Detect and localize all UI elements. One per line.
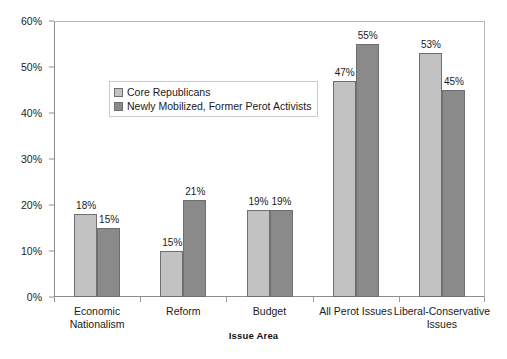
x-tick-mark [226, 297, 227, 302]
bar-group: 53%45% [419, 21, 465, 297]
legend-item-core-republicans: Core Republicans [114, 85, 311, 99]
chart-legend: Core Republicans Newly Mobilized, Former… [109, 81, 318, 117]
bar-value-label: 55% [348, 30, 388, 41]
bar[interactable] [333, 81, 356, 297]
bar[interactable] [183, 200, 206, 297]
legend-swatch-core-republicans [114, 88, 123, 97]
bar-value-label: 45% [434, 76, 474, 87]
x-category-label: Liberal-ConservativeIssues [391, 305, 493, 331]
bar-value-label: 53% [411, 39, 451, 50]
bar-group: 18%15% [74, 21, 120, 297]
y-tick-label: 40% [21, 107, 42, 119]
bar[interactable] [74, 214, 97, 297]
bar[interactable] [442, 90, 465, 297]
legend-label-newly-mobilized: Newly Mobilized, Former Perot Activists [127, 100, 311, 112]
bar-chart: 0%10%20%30%40%50%60% 18%15%15%21%19%19%4… [0, 0, 507, 359]
x-tick-mark [313, 297, 314, 302]
bar[interactable] [356, 44, 379, 297]
x-tick-mark [54, 297, 55, 302]
bar[interactable] [97, 228, 120, 297]
bar[interactable] [160, 251, 183, 297]
y-tick-label: 0% [27, 291, 42, 303]
bar-group: 15%21% [160, 21, 206, 297]
bar[interactable] [270, 210, 293, 297]
legend-swatch-newly-mobilized [114, 102, 123, 111]
bar[interactable] [419, 53, 442, 297]
legend-item-newly-mobilized: Newly Mobilized, Former Perot Activists [114, 99, 311, 113]
x-axis: EconomicNationalismReformBudgetAll Perot… [54, 297, 485, 359]
bar-value-label: 19% [262, 196, 302, 207]
bar-value-label: 15% [89, 214, 129, 225]
y-tick-label: 50% [21, 61, 42, 73]
bar-group: 19%19% [247, 21, 293, 297]
bar-value-label: 21% [175, 186, 215, 197]
x-tick-mark [484, 297, 485, 302]
bars-layer: 18%15%15%21%19%19%47%55%53%45% [54, 21, 485, 297]
x-category-label-line: Liberal-Conservative [391, 305, 493, 318]
x-tick-mark [140, 297, 141, 302]
bar[interactable] [247, 210, 270, 297]
bar-value-label: 18% [66, 200, 106, 211]
x-tick-mark [399, 297, 400, 302]
bar-group: 47%55% [333, 21, 379, 297]
y-tick-label: 30% [21, 153, 42, 165]
y-tick-label: 20% [21, 199, 42, 211]
y-tick-label: 10% [21, 245, 42, 257]
x-axis-title: Issue Area [0, 330, 507, 341]
legend-label-core-republicans: Core Republicans [127, 86, 210, 98]
y-tick-label: 60% [21, 15, 42, 27]
